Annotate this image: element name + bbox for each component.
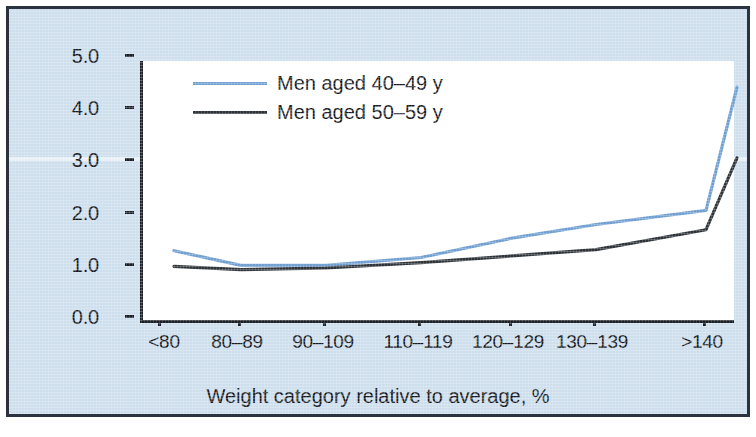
x-tick-label-1: 80–89: [211, 331, 262, 353]
legend: Men aged 40–49 y Men aged 50–59 y: [193, 69, 443, 127]
y-tick-mark-2: [125, 211, 134, 214]
legend-item-men-40-49: Men aged 40–49 y: [193, 69, 443, 98]
x-tick-label-6: >140: [681, 331, 723, 353]
y-tick-mark-0: [125, 315, 134, 318]
legend-label-men-50-59: Men aged 50–59 y: [277, 101, 443, 124]
x-tick-label-0: <80: [148, 331, 179, 353]
y-tick-label-0: 0.0: [29, 306, 99, 329]
figure-container: Mortality ratio 5.0 4.0 3.0 2.0 1.0 0.0 …: [0, 0, 756, 437]
x-tick-label-4: 120–129: [472, 331, 544, 353]
y-tick-mark-1: [125, 263, 134, 266]
legend-swatch-men-40-49: [193, 82, 267, 85]
legend-swatch-men-50-59: [193, 111, 267, 114]
series-line-men-50-59: [174, 158, 737, 270]
y-tick-label-3: 3.0: [29, 149, 99, 172]
legend-label-men-40-49: Men aged 40–49 y: [277, 72, 443, 95]
y-tick-label-1: 1.0: [29, 254, 99, 277]
figure-frame: Mortality ratio 5.0 4.0 3.0 2.0 1.0 0.0 …: [6, 6, 750, 417]
x-tick-label-3: 110–119: [383, 331, 452, 353]
legend-item-men-50-59: Men aged 50–59 y: [193, 98, 443, 127]
y-tick-mark-3: [125, 158, 134, 161]
plot-area: Men aged 40–49 y Men aged 50–59 y: [140, 61, 734, 323]
y-tick-label-4: 4.0: [29, 97, 99, 120]
y-tick-mark-5: [125, 54, 134, 57]
y-tick-label-5: 5.0: [29, 45, 99, 68]
y-tick-label-2: 2.0: [29, 202, 99, 225]
x-axis-title: Weight category relative to average, %: [9, 385, 747, 408]
y-tick-mark-4: [125, 106, 134, 109]
x-tick-label-5: 130–139: [556, 331, 628, 353]
x-tick-label-2: 90–109: [292, 331, 354, 353]
